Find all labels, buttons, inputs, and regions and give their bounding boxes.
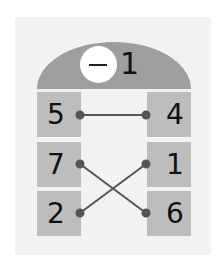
dot-icon <box>143 210 150 217</box>
dot-icon <box>143 161 150 168</box>
connection-lines <box>0 0 222 270</box>
dot-icon <box>143 112 150 119</box>
dot-icon <box>77 112 84 119</box>
dot-icon <box>77 161 84 168</box>
dot-icon <box>77 210 84 217</box>
